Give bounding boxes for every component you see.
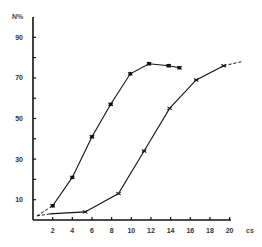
data-point — [50, 204, 54, 207]
data-point-dot — [129, 73, 132, 76]
y-tick-label: 90 — [15, 34, 23, 41]
y-tick-label: 70 — [15, 74, 23, 81]
data-point — [128, 72, 132, 75]
data-point — [90, 135, 94, 138]
series-line — [50, 66, 224, 214]
chart: N% cs 24681012141618201030507090 — [0, 0, 262, 247]
data-point — [108, 103, 112, 106]
x-tick-label: 14 — [167, 227, 175, 234]
y-tick-label: 30 — [15, 156, 23, 163]
y-axis-label: N% — [12, 13, 24, 20]
data-point — [166, 64, 170, 67]
x-tick-label: 4 — [70, 227, 74, 234]
data-point — [70, 176, 74, 179]
data-point-dot — [109, 103, 112, 106]
data-point-dot — [148, 62, 151, 65]
x-tick-label: 2 — [51, 227, 55, 234]
data-point-dot — [71, 176, 74, 179]
data-point-dot — [91, 135, 94, 138]
data-point-dot — [51, 204, 54, 207]
data-point — [194, 78, 198, 81]
series-line — [53, 64, 180, 206]
series — [37, 62, 242, 216]
x-tick-label: 10 — [127, 227, 135, 234]
x-tick-label: 8 — [110, 227, 114, 234]
axes — [33, 17, 231, 220]
y-tick-label: 10 — [15, 196, 23, 203]
ticks: 24681012141618201030507090 — [15, 34, 233, 234]
series-curve-left — [37, 62, 182, 216]
data-point-dot — [178, 66, 181, 69]
x-tick-label: 12 — [147, 227, 155, 234]
x-tick-label: 6 — [90, 227, 94, 234]
x-axis-label: cs — [246, 227, 254, 234]
data-point — [177, 66, 181, 69]
x-tick-label: 18 — [206, 227, 214, 234]
series-curve-right — [37, 62, 242, 216]
y-tick-label: 50 — [15, 115, 23, 122]
series-dashed-end — [224, 62, 242, 66]
data-point — [147, 62, 151, 65]
x-tick-label: 20 — [226, 227, 234, 234]
x-tick-label: 16 — [186, 227, 194, 234]
data-point-dot — [167, 64, 170, 67]
